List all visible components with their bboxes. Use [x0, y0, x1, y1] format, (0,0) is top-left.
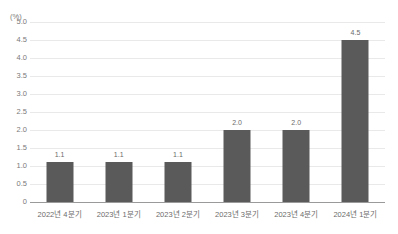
bars-container: 1.11.11.12.02.04.5 [30, 22, 385, 202]
y-axis-tick-label: 5.0 [1, 17, 27, 26]
bar-value-label: 4.5 [351, 29, 361, 36]
axis-baseline [30, 202, 385, 203]
x-axis-tick-label: 2022년 4분기 [38, 208, 82, 219]
bar-chart: (%) 00.51.01.52.02.53.03.54.04.55.0 1.11… [0, 0, 398, 234]
bar-slot: 1.1 [148, 22, 207, 202]
bar-slot: 4.5 [326, 22, 385, 202]
y-axis-tick-label: 4.5 [1, 35, 27, 44]
y-axis-tick-label: 1.5 [1, 143, 27, 152]
x-axis-tick-labels: 2022년 4분기2023년 1분기2023년 2분기2023년 3분기2023… [30, 208, 385, 228]
bar-slot: 2.0 [267, 22, 326, 202]
bar-slot: 2.0 [208, 22, 267, 202]
bar-slot: 1.1 [89, 22, 148, 202]
y-axis-tick-label: 3.0 [1, 89, 27, 98]
bar-value-label: 2.0 [232, 119, 242, 126]
x-axis-tick-label: 2024년 1분기 [333, 208, 377, 219]
x-axis-tick-label: 2023년 4분기 [274, 208, 318, 219]
x-axis-tick-label: 2023년 3분기 [215, 208, 259, 219]
y-axis-tick-label: 1.0 [1, 161, 27, 170]
x-axis-tick-label: 2023년 2분기 [156, 208, 200, 219]
bar[interactable] [283, 130, 310, 202]
bar[interactable] [46, 162, 73, 202]
x-axis-tick-label: 2023년 1분기 [97, 208, 141, 219]
y-axis-tick-label: 4.0 [1, 53, 27, 62]
bar-value-label: 1.1 [173, 151, 183, 158]
bar[interactable] [164, 162, 191, 202]
y-axis-tick-label: 3.5 [1, 71, 27, 80]
bar-value-label: 1.1 [114, 151, 124, 158]
y-axis-tick-label: 2.0 [1, 125, 27, 134]
bar-value-label: 1.1 [55, 151, 65, 158]
y-axis-tick-label: 2.5 [1, 107, 27, 116]
bar-value-label: 2.0 [291, 119, 301, 126]
bar[interactable] [105, 162, 132, 202]
y-axis-tick-label: 0.5 [1, 179, 27, 188]
y-axis-tick-labels: 00.51.01.52.02.53.03.54.04.55.0 [0, 22, 27, 202]
bar[interactable] [224, 130, 251, 202]
y-axis-tick-label: 0 [1, 197, 27, 206]
bar[interactable] [342, 40, 369, 202]
bar-slot: 1.1 [30, 22, 89, 202]
